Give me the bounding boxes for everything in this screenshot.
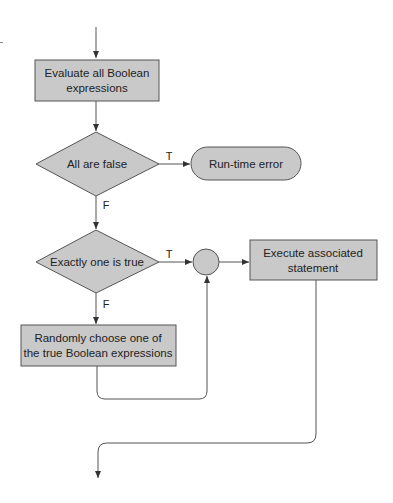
exactly-one-label: Exactly one is true bbox=[50, 256, 144, 268]
true-label-1: T bbox=[166, 150, 173, 162]
junction-circle bbox=[193, 249, 219, 275]
runtime-error-label: Run-time error bbox=[209, 158, 283, 170]
true-label-2: T bbox=[166, 248, 173, 260]
execute-label-line1: Execute associated bbox=[263, 247, 363, 259]
flowchart: Evaluate all Boolean expressions All are… bbox=[0, 0, 393, 503]
false-label-1: F bbox=[103, 199, 110, 211]
margin-mark bbox=[0, 42, 3, 43]
random-label-line1: Randomly choose one of bbox=[34, 332, 162, 344]
random-choose-box: Randomly choose one of the true Boolean … bbox=[21, 325, 176, 366]
runtime-error-terminator: Run-time error bbox=[191, 147, 301, 180]
evaluate-label-line2: expressions bbox=[66, 82, 128, 94]
execute-box: Execute associated statement bbox=[250, 240, 377, 280]
exactly-one-decision: Exactly one is true bbox=[36, 230, 159, 293]
all-false-label: All are false bbox=[67, 158, 127, 170]
false-label-2: F bbox=[103, 298, 110, 310]
evaluate-label-line1: Evaluate all Boolean bbox=[45, 67, 150, 79]
all-false-decision: All are false bbox=[36, 132, 159, 196]
execute-label-line2: statement bbox=[288, 262, 339, 274]
random-label-line2: the true Boolean expressions bbox=[24, 347, 173, 359]
evaluate-box: Evaluate all Boolean expressions bbox=[35, 60, 159, 101]
